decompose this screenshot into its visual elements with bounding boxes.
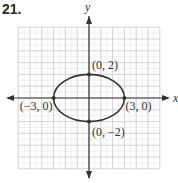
graph: y x (0, 2)(3, 0)(0, −2)(−3, 0) (0, 0, 178, 183)
x-axis-label: x (172, 91, 178, 105)
point-marker (87, 72, 91, 76)
y-axis-up-arrow-icon (86, 16, 92, 24)
point-label: (3, 0) (125, 99, 151, 113)
y-axis-label: y (84, 0, 91, 14)
x-axis-right-arrow-icon (162, 95, 170, 101)
y-axis-down-arrow-icon (86, 171, 92, 179)
point-label: (−3, 0) (20, 99, 53, 113)
point-marker (87, 120, 91, 124)
point-label: (0, 2) (92, 58, 118, 72)
axes (6, 16, 170, 179)
x-axis-left-arrow-icon (6, 95, 14, 101)
point-label: (0, −2) (92, 125, 125, 139)
